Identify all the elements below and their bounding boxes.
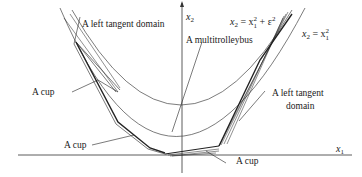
equation-outer-parabola: x2 = x21 [301, 27, 330, 42]
label-left-tangent-right-line2: domain [286, 101, 315, 111]
y-axis-label: x2 [185, 11, 194, 24]
x-axis-label: x1 [335, 143, 344, 156]
label-left-tangent-domain: A left tangent domain [82, 19, 165, 29]
bottom-cup-lines [165, 146, 219, 156]
label-cup-left-upper: A cup [32, 87, 55, 97]
parabola-cup-diagram: A left tangent domain A multitrolleybus … [0, 0, 362, 177]
right-tangent-lines [219, 12, 292, 146]
label-cup-bottom: A cup [236, 156, 259, 166]
left-tangent-lines [64, 14, 165, 154]
equation-inner-parabola: x2 = x21 + ε2 [229, 15, 276, 30]
label-left-tangent-right-line1: A left tangent [272, 88, 324, 98]
y-axis-arrow-icon [180, 1, 184, 7]
label-cup-left-lower: A cup [64, 140, 87, 150]
label-multitrolleybus: A multitrolleybus [186, 35, 253, 45]
